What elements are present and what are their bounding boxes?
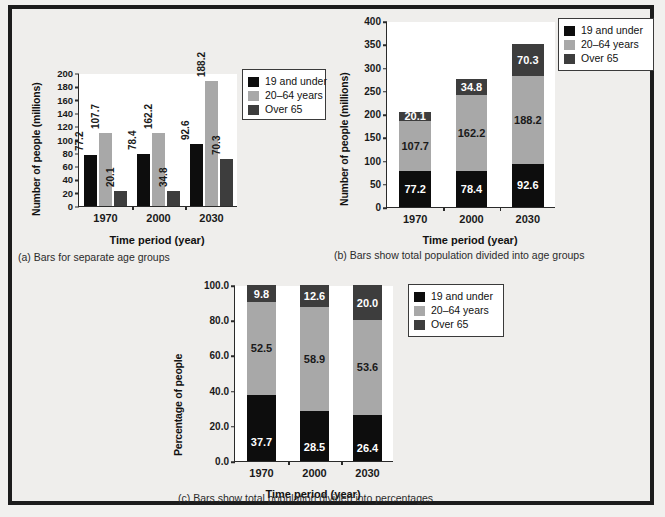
bar-value-label: 77.2 xyxy=(75,131,85,150)
y-axis-tick-label: 60 xyxy=(62,162,79,172)
segment-value-label: 70.3 xyxy=(512,54,544,66)
legend-swatch-icon xyxy=(248,105,259,115)
x-axis-tick-label: 2000 xyxy=(146,206,170,224)
bar xyxy=(114,191,127,206)
x-axis-tick-label: 2030 xyxy=(516,207,540,225)
bar-segment: 70.3 xyxy=(512,44,544,77)
y-axis-tick-label: 250 xyxy=(364,87,387,97)
bar-segment: 20.0 xyxy=(353,285,383,320)
segment-value-label: 77.2 xyxy=(399,183,431,195)
legend-swatch-icon xyxy=(414,320,425,330)
segment-value-label: 28.5 xyxy=(300,441,330,453)
x-axis-tick-mark xyxy=(288,461,290,465)
y-axis-tick-label: 20.0 xyxy=(210,422,235,432)
x-axis-tick-label: 1970 xyxy=(93,206,117,224)
segment-value-label: 92.6 xyxy=(512,179,544,191)
y-axis-tick-label: 180 xyxy=(57,83,79,93)
y-axis-tick-label: 400 xyxy=(364,17,387,27)
bar-segment: 20.1 xyxy=(399,112,431,121)
legend-item-label: Over 65 xyxy=(431,319,468,330)
segment-value-label: 37.7 xyxy=(247,436,277,448)
bar-value-label: 188.2 xyxy=(197,52,207,77)
y-axis-tick-label: 140 xyxy=(57,109,79,119)
x-axis-tick-label: 1970 xyxy=(249,461,273,479)
bar-segment: 34.8 xyxy=(456,79,488,95)
bar xyxy=(167,191,180,206)
y-axis-tick-label: 100.0 xyxy=(204,281,235,291)
bar-segment: 9.8 xyxy=(247,285,277,302)
chart-panel-a: Number of people (millions) 020406080100… xyxy=(14,12,326,260)
y-axis-tick-label: 300 xyxy=(364,64,387,74)
bar-segment: 52.5 xyxy=(247,302,277,394)
bar-value-label: 78.4 xyxy=(128,130,138,149)
legend-item-1: 20–64 years xyxy=(564,38,647,51)
chart-a-caption: (a) Bars for separate age groups xyxy=(18,251,170,263)
legend-item-label: 19 and under xyxy=(581,25,643,36)
bar xyxy=(190,144,203,206)
y-axis-tick-label: 200 xyxy=(57,69,79,79)
segment-value-label: 9.8 xyxy=(247,288,277,300)
bar-value-label: 92.6 xyxy=(181,121,191,140)
x-axis-tick-label: 2030 xyxy=(199,206,223,224)
x-axis-tick-mark xyxy=(185,206,187,210)
bar-value-label: 20.1 xyxy=(106,168,116,187)
bar-segment: 92.6 xyxy=(512,164,544,207)
segment-value-label: 26.4 xyxy=(353,442,383,454)
legend-item-1: 20–64 years xyxy=(248,89,319,102)
legend-item-label: 20–64 years xyxy=(431,305,489,316)
legend-item-label: 20–64 years xyxy=(265,90,323,101)
y-axis-tick-label: 20 xyxy=(62,189,79,199)
segment-value-label: 34.8 xyxy=(456,81,488,93)
segment-value-label: 58.9 xyxy=(300,353,330,365)
x-axis-tick-mark xyxy=(443,207,445,211)
bar-segment: 26.4 xyxy=(353,415,383,461)
legend-item-1: 20–64 years xyxy=(414,304,497,317)
bar-value-label: 107.7 xyxy=(91,104,101,129)
legend-swatch-icon xyxy=(248,77,259,87)
segment-value-label: 53.6 xyxy=(353,361,383,373)
chart-b-xlabel: Time period (year) xyxy=(386,234,554,246)
chart-b-ylabel: Number of people (millions) xyxy=(338,73,350,206)
x-axis-tick-mark xyxy=(500,207,502,211)
y-axis-tick-label: 120 xyxy=(57,122,79,132)
bar-value-label: 70.3 xyxy=(212,136,222,155)
chart-b-plot-area: 05010015020025030035040019702000203077.2… xyxy=(386,22,555,208)
chart-c-legend: 19 and under20–64 yearsOver 65 xyxy=(408,284,504,337)
legend-item-2: Over 65 xyxy=(414,318,497,331)
bar-segment: 77.2 xyxy=(399,171,431,207)
bar-segment: 28.5 xyxy=(300,411,330,461)
bar-segment: 188.2 xyxy=(512,76,544,164)
legend-item-0: 19 and under xyxy=(564,24,647,37)
legend-item-0: 19 and under xyxy=(248,75,319,88)
x-axis-tick-label: 1970 xyxy=(403,207,427,225)
chart-a-plot-area: 0204060801001201401601802001970200020307… xyxy=(78,74,237,207)
chart-c-caption: (c) Bars show total population divided i… xyxy=(178,492,433,504)
chart-a-xlabel: Time period (year) xyxy=(78,234,236,246)
x-axis-tick-mark xyxy=(341,461,343,465)
y-axis-tick-label: 100 xyxy=(364,157,387,167)
y-axis-tick-label: 60.0 xyxy=(210,351,235,361)
legend-item-label: 20–64 years xyxy=(581,39,639,50)
bar-segment: 12.6 xyxy=(300,285,330,307)
legend-item-2: Over 65 xyxy=(564,52,647,65)
legend-swatch-icon xyxy=(248,91,259,101)
bar-segment: 107.7 xyxy=(399,121,431,171)
y-axis-tick-label: 350 xyxy=(364,40,387,50)
legend-swatch-icon xyxy=(564,54,575,64)
y-axis-tick-label: 150 xyxy=(364,133,387,143)
bar xyxy=(220,159,233,206)
legend-item-0: 19 and under xyxy=(414,290,497,303)
segment-value-label: 78.4 xyxy=(456,183,488,195)
bar-value-label: 34.8 xyxy=(159,168,169,187)
chart-a-ylabel: Number of people (millions) xyxy=(30,83,42,216)
segment-value-label: 52.5 xyxy=(247,342,277,354)
segment-value-label: 162.2 xyxy=(456,127,488,139)
segment-value-label: 20.0 xyxy=(353,297,383,309)
chart-c-plot-area: 0.020.040.060.080.0100.019702000203037.7… xyxy=(234,286,393,462)
x-axis-tick-label: 2000 xyxy=(459,207,483,225)
bar xyxy=(137,154,150,206)
y-axis-tick-label: 160 xyxy=(57,96,79,106)
segment-value-label: 12.6 xyxy=(300,290,330,302)
bar-segment: 162.2 xyxy=(456,95,488,170)
figure-root: Number of people (millions) 020406080100… xyxy=(0,0,665,517)
